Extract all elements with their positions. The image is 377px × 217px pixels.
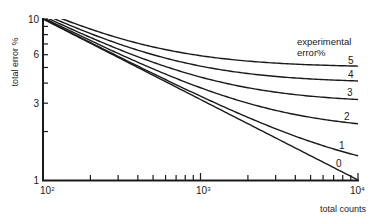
curve-label-5: 5 [348, 55, 354, 66]
curve-label-3: 3 [347, 87, 353, 98]
chart-canvas: total error % 10 6 3 1 102 103 104 total… [0, 0, 377, 217]
x-tick-label-1000: 103 [196, 185, 211, 196]
y-tick-label-1: 1 [33, 175, 39, 186]
curve-label-1: 1 [339, 140, 345, 151]
legend-title-line1: experimental [297, 36, 351, 47]
y-axis-label: total error % [10, 37, 20, 86]
x-tick-label-10000: 104 [350, 185, 365, 196]
y-tick-label-3: 3 [33, 98, 39, 109]
curve-label-0: 0 [336, 158, 342, 169]
x-axis-label: total counts [320, 204, 367, 214]
y-tick-label-10: 10 [28, 14, 40, 25]
x-tick-label-100: 102 [40, 185, 55, 196]
legend-title-line2: error% [297, 47, 326, 58]
y-tick-label-6: 6 [33, 49, 39, 60]
curve-label-4: 4 [348, 69, 354, 80]
curve-label-2: 2 [344, 111, 350, 122]
x-minor-ticks [90, 173, 358, 180]
